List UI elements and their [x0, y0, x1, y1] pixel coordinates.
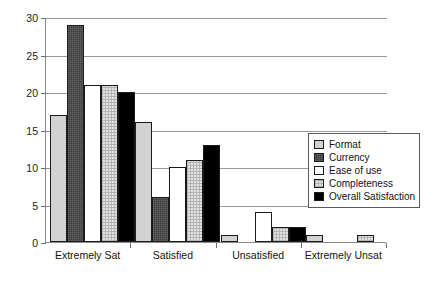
x-axis-tick: [216, 243, 217, 248]
bar: [203, 145, 220, 243]
legend-label: Format: [329, 140, 361, 150]
legend-item: Overall Satisfaction: [314, 190, 415, 203]
bar: [101, 85, 118, 243]
legend-label: Ease of use: [329, 166, 382, 176]
y-axis-tick: [41, 56, 46, 57]
bar-group: [50, 17, 135, 242]
bar: [135, 122, 152, 242]
bar: [255, 212, 272, 242]
y-axis-tick-label: 25: [0, 50, 38, 61]
bar: [152, 197, 169, 242]
y-axis-tick-label: 15: [0, 125, 38, 136]
legend-item: Format: [314, 138, 415, 151]
legend-swatch-icon: [314, 153, 324, 162]
y-axis-tick-label: 5: [0, 200, 38, 211]
legend-item: Ease of use: [314, 164, 415, 177]
legend-swatch-icon: [314, 140, 324, 149]
bar: [169, 167, 186, 242]
legend-label: Overall Satisfaction: [329, 192, 415, 202]
y-axis-tick-label: 20: [0, 88, 38, 99]
y-axis-tick: [41, 93, 46, 94]
legend-label: Completeness: [329, 179, 393, 189]
y-axis-tick: [41, 206, 46, 207]
y-axis-tick: [41, 18, 46, 19]
x-axis-tick: [386, 243, 387, 248]
legend-item: Currency: [314, 151, 415, 164]
legend-swatch-icon: [314, 179, 324, 188]
bar: [221, 235, 238, 243]
bar-group: [306, 17, 391, 242]
bar: [306, 235, 323, 243]
x-axis-tick-label: Extremely Unsat: [291, 250, 396, 262]
bar-chart-screenshot: 051015202530 Extremely SatSatisfiedUnsat…: [0, 0, 441, 290]
x-axis-tick: [130, 243, 131, 248]
y-axis-tick-label: 0: [0, 238, 38, 249]
x-axis-tick: [301, 243, 302, 248]
bar: [118, 92, 135, 242]
y-axis-tick: [41, 131, 46, 132]
bar: [50, 115, 67, 243]
bar: [289, 227, 306, 242]
bar: [84, 85, 101, 243]
legend-label: Currency: [329, 153, 370, 163]
y-axis-tick-label: 30: [0, 13, 38, 24]
bar: [272, 227, 289, 242]
legend-item: Completeness: [314, 177, 415, 190]
chart-legend: FormatCurrencyEase of useCompletenessOve…: [308, 133, 420, 208]
y-axis-tick-label: 10: [0, 163, 38, 174]
bar-group: [221, 17, 306, 242]
bar: [186, 160, 203, 243]
y-axis-tick: [41, 168, 46, 169]
legend-swatch-icon: [314, 192, 324, 201]
plot-area: [45, 18, 386, 243]
y-axis-tick: [41, 243, 46, 244]
bar: [67, 25, 84, 243]
bar: [357, 235, 374, 243]
legend-swatch-icon: [314, 166, 324, 175]
bar-group: [135, 17, 220, 242]
